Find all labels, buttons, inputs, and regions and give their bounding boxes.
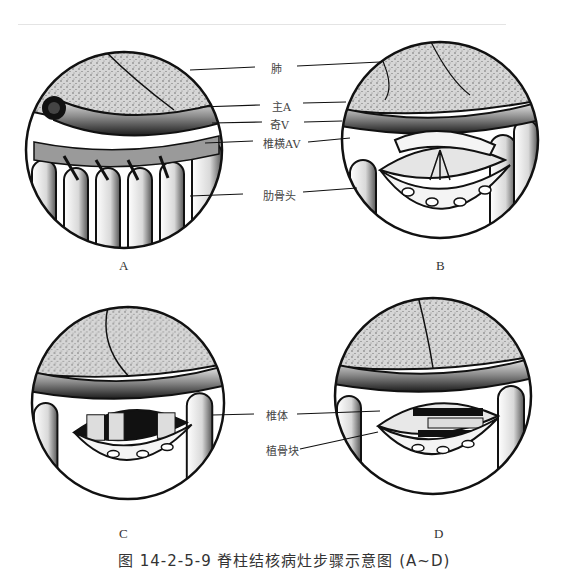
figure-caption: 图 14-2-5-9 脊柱结核病灶步骤示意图 (A~D) xyxy=(118,549,450,570)
callout-rib-head: 肋骨头 xyxy=(263,187,296,203)
callout-bone-graft: 植骨块 xyxy=(266,442,299,458)
callout-aorta: 主A xyxy=(272,98,291,114)
callout-azygos-vein: 奇V xyxy=(270,116,289,132)
callout-lung: 肺 xyxy=(271,60,282,76)
callout-vertebral-body: 椎体 xyxy=(266,407,288,423)
callout-segmental-vessels: 椎横AV xyxy=(263,135,300,151)
